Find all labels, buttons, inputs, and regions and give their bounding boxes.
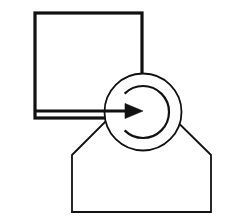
drawing-canvas: Line drawing of a square overlapping a c… bbox=[0, 0, 242, 221]
figure-svg bbox=[0, 0, 242, 221]
